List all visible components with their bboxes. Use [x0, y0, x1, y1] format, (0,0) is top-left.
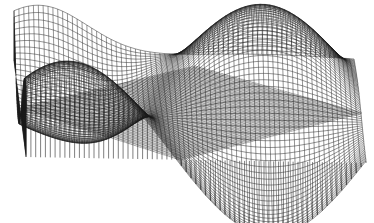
surface-plot [0, 0, 374, 223]
wireframe-surface-canvas [0, 0, 374, 223]
